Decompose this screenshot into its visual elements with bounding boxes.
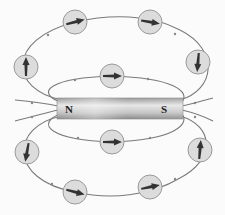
field-line-left-upper: [15, 100, 58, 106]
compass: [63, 180, 87, 204]
compass: [138, 175, 162, 199]
compass: [100, 130, 124, 154]
north-pole-label: N: [65, 103, 73, 115]
compass: [138, 10, 162, 34]
magnet-field-diagram: N S: [0, 0, 225, 215]
compass: [63, 10, 87, 34]
compass: [188, 138, 212, 162]
compass: [14, 55, 38, 79]
compass: [186, 50, 210, 74]
diagram-canvas: N S: [0, 0, 225, 215]
compass: [100, 64, 124, 88]
compass: [15, 140, 39, 164]
south-pole-label: S: [161, 103, 167, 115]
bar-magnet: N S: [57, 98, 183, 119]
field-line-right-lower: [182, 110, 213, 121]
field-line-right-upper: [182, 98, 213, 106]
